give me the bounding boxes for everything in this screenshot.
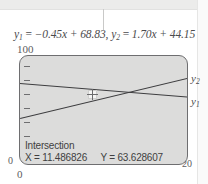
- equation-y1: y1 = −0.45x + 68.83: [14, 28, 106, 40]
- curve-label-y2-subscript: 2: [196, 77, 200, 86]
- y-axis-tick: [24, 94, 30, 95]
- readout-y-label: Y =: [100, 152, 115, 163]
- plot-line-y2: [20, 77, 188, 119]
- readout-x-value: 11.486826: [42, 152, 87, 163]
- equation-y2-expression: 1.70x + 44.15: [132, 28, 195, 40]
- curve-label-y2: y2: [191, 72, 200, 86]
- page-top-band: [0, 0, 208, 10]
- plot-area: Intersection X = 11.486826 Y = 63.628607: [20, 56, 187, 164]
- readout-y-value: 63.628607: [117, 152, 162, 163]
- axis-label-y-min: 0: [8, 155, 13, 166]
- equation-y2: y2 = 1.70x + 44.15: [111, 28, 195, 40]
- figure-page: y1 = −0.45x + 68.83, y2 = 1.70x + 44.15 …: [0, 0, 208, 184]
- readout-x-label: X =: [25, 152, 40, 163]
- y-axis-tick: [24, 122, 30, 123]
- y-axis-tick: [24, 108, 30, 109]
- intersection-readout-values: X = 11.486826 Y = 63.628607: [25, 152, 163, 163]
- leader-line: [103, 9, 104, 30]
- axis-label-y-max: 100: [17, 43, 34, 55]
- curve-label-y1-subscript: 1: [196, 100, 200, 109]
- plot-line-y1: [20, 83, 188, 98]
- equation-y1-relation: =: [25, 28, 31, 40]
- y-axis-tick: [24, 80, 30, 81]
- equation-y1-expression: −0.45x + 68.83: [35, 28, 106, 40]
- equations-caption: y1 = −0.45x + 68.83, y2 = 1.70x + 44.15: [14, 28, 200, 42]
- axis-label-x-min: 0: [17, 168, 23, 180]
- intersection-readout-title: Intersection: [25, 140, 74, 151]
- y-axis-tick: [24, 136, 30, 137]
- y-axis-tick: [24, 66, 30, 67]
- curve-label-y1: y1: [191, 95, 200, 109]
- intersection-cursor-icon: [89, 91, 96, 98]
- calculator-screen: Intersection X = 11.486826 Y = 63.628607: [19, 55, 188, 165]
